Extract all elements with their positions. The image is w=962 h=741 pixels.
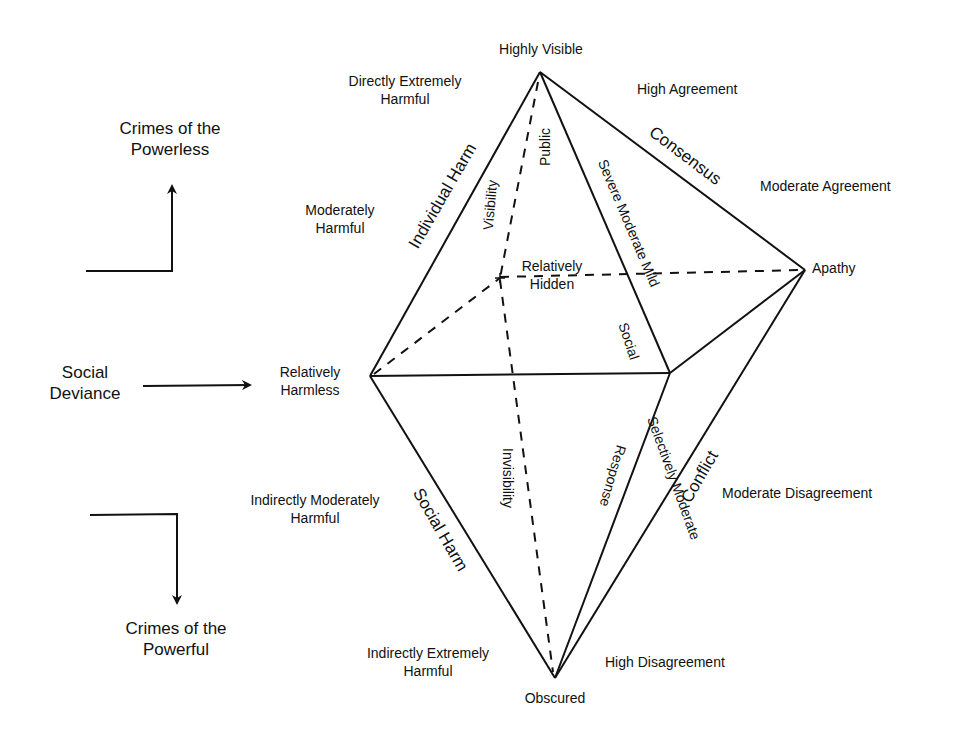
edge-top-left xyxy=(370,72,540,376)
vertex-apathy: Apathy xyxy=(812,260,856,278)
arrow-to-harmless xyxy=(143,385,250,386)
edge-frontright-apathy xyxy=(670,270,805,373)
edge-left-bottom xyxy=(370,376,555,678)
label-indirectly-moderately-harmful: Indirectly Moderately Harmful xyxy=(230,492,400,527)
label-high-agreement: High Agreement xyxy=(637,81,737,99)
hidden-line1: Relatively xyxy=(512,258,592,276)
indirect-moderate-line1: Indirectly Moderately xyxy=(230,492,400,510)
harmless-line1: Relatively xyxy=(260,364,360,382)
deviance-line2: Deviance xyxy=(30,383,140,404)
edge-label-invisibility: Invisibility xyxy=(500,438,516,518)
powerless-line1: Crimes of the xyxy=(110,118,230,139)
label-directly-extremely-harmful: Directly Extremely Harmful xyxy=(330,73,480,108)
vertex-relatively-hidden: Relatively Hidden xyxy=(512,258,592,293)
moderate-line2: Harmful xyxy=(290,220,390,238)
label-moderate-agreement: Moderate Agreement xyxy=(760,178,891,196)
label-indirectly-extremely-harmful: Indirectly Extremely Harmful xyxy=(348,645,508,680)
powerless-line2: Powerless xyxy=(110,139,230,160)
edge-top-apathy xyxy=(540,72,805,270)
social-deviance-label: Social Deviance xyxy=(30,362,140,405)
solid-edges xyxy=(370,72,805,678)
indirect-extreme-line1: Indirectly Extremely xyxy=(348,645,508,663)
edge-left-frontright xyxy=(370,373,670,376)
crimes-of-powerless-label: Crimes of the Powerless xyxy=(110,118,230,161)
directly-extreme-line2: Harmful xyxy=(330,91,480,109)
arrow-to-powerful xyxy=(90,514,177,603)
edge-left-back xyxy=(374,278,500,374)
indirect-moderate-line2: Harmful xyxy=(230,510,400,528)
crimes-of-powerful-label: Crimes of the Powerful xyxy=(116,618,236,661)
directly-extreme-line1: Directly Extremely xyxy=(330,73,480,91)
moderate-line1: Moderately xyxy=(290,202,390,220)
vertex-highly-visible: Highly Visible xyxy=(489,41,593,59)
arrow-to-powerless xyxy=(86,186,172,271)
label-high-disagreement: High Disagreement xyxy=(605,654,725,672)
edge-label-public: Public xyxy=(537,122,553,172)
hidden-line2: Hidden xyxy=(512,276,592,294)
harmless-line2: Harmless xyxy=(260,382,360,400)
vertex-relatively-harmless: Relatively Harmless xyxy=(260,364,360,399)
label-moderately-harmful: Moderately Harmful xyxy=(290,202,390,237)
indirect-extreme-line2: Harmful xyxy=(348,663,508,681)
powerful-line1: Crimes of the xyxy=(116,618,236,639)
vertex-obscured: Obscured xyxy=(515,690,595,708)
deviance-line1: Social xyxy=(30,362,140,383)
label-moderate-disagreement: Moderate Disagreement xyxy=(722,485,872,503)
powerful-line2: Powerful xyxy=(116,639,236,660)
